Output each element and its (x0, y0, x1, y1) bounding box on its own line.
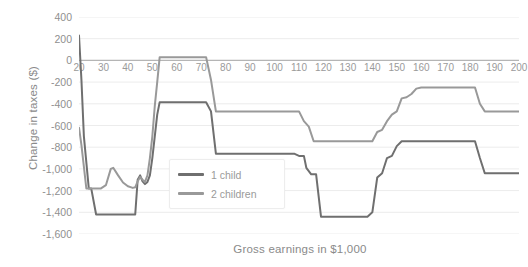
y-tick-label: -1,200 (18, 185, 72, 197)
y-tick-label: -400 (18, 98, 72, 110)
legend-swatch-2-children (178, 192, 204, 195)
y-tick-label: -200 (18, 76, 72, 88)
legend: 1 child 2 children (169, 159, 285, 209)
gridlines (79, 17, 519, 234)
series-line-1-child (79, 35, 519, 216)
legend-label-2-children: 2 children (211, 188, 257, 200)
y-tick-label: -1,600 (18, 228, 72, 240)
tax-change-line-chart: Change in taxes ($) 4002000-200-400-600-… (0, 0, 528, 267)
plot-svg (79, 17, 519, 234)
legend-item-1-child[interactable]: 1 child (178, 169, 276, 181)
y-tick-label: -800 (18, 141, 72, 153)
legend-swatch-1-child (178, 173, 204, 176)
x-axis-title: Gross earnings in $1,000 (80, 243, 520, 255)
y-tick-label: -600 (18, 120, 72, 132)
y-tick-label: 200 (18, 33, 72, 45)
y-tick-label: 400 (18, 11, 72, 23)
y-tick-label: -1,000 (18, 163, 72, 175)
series-lines (79, 35, 519, 216)
plot-area (79, 17, 519, 234)
y-axis-tick-labels: 4002000-200-400-600-800-1,000-1,200-1,40… (18, 0, 72, 267)
legend-item-2-children[interactable]: 2 children (178, 188, 276, 200)
y-tick-label: -1,400 (18, 206, 72, 218)
legend-label-1-child: 1 child (211, 169, 241, 181)
